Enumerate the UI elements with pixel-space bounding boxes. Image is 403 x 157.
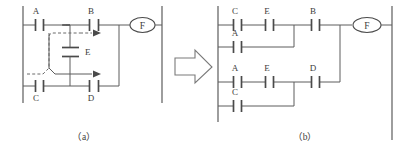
b-contact-E2 <box>266 76 274 88</box>
b-contact-D-label: D <box>310 63 317 73</box>
a-coil-F-label: F <box>140 21 145 31</box>
a-contact-E <box>62 48 79 57</box>
a-contact-D-label: D <box>88 93 95 103</box>
figure-container: A B C D E <box>0 0 403 157</box>
a-contact-B <box>90 19 99 31</box>
a-contact-A-label: A <box>33 6 40 16</box>
a-flow-lower-arrowhead <box>93 71 101 78</box>
caption-b: （b） <box>293 131 318 142</box>
b-contact-A2-label: A <box>232 63 239 73</box>
a-contact-E-label: E <box>85 47 91 57</box>
a-contact-B-label: B <box>88 6 94 16</box>
b-contact-E2-label: E <box>264 63 270 73</box>
b-contact-D <box>312 76 320 88</box>
b-contact-C1-label: C <box>232 6 238 16</box>
a-contact-A <box>36 19 44 31</box>
a-contact-D <box>90 80 99 92</box>
b-contact-C2-label: C <box>232 87 238 97</box>
b-contact-E1-label: E <box>264 6 270 16</box>
b-contact-E1 <box>266 19 274 31</box>
figure-canvas: A B C D E <box>0 0 403 157</box>
a-flow-lower <box>49 33 101 78</box>
b-contact-A1 <box>234 41 242 53</box>
b-contact-B-label: B <box>310 6 316 16</box>
a-contact-C <box>36 80 44 92</box>
caption-a: （a） <box>72 131 96 142</box>
b-coil-F-label: F <box>364 21 369 31</box>
right-arrow-icon <box>175 50 212 83</box>
b-contact-A1-label: A <box>232 28 239 38</box>
b-contact-B <box>312 19 320 31</box>
a-contact-C-label: C <box>33 93 39 103</box>
a-flow-upper-arrowhead <box>93 30 101 37</box>
b-contact-C2 <box>234 100 242 112</box>
